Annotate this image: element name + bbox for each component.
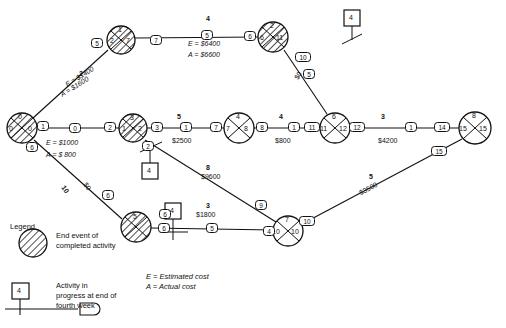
activity-tag-label: 1 <box>41 123 45 130</box>
activity-tag[interactable]: 15 <box>432 147 447 156</box>
pert-network-diagram: 0 0 0 3 1 2 1 2 7 2 6 11 4 7 8 6 11 12 8… <box>0 0 506 328</box>
edge-duration: 4 <box>279 113 283 120</box>
activity-tag[interactable]: 6 <box>245 32 256 41</box>
activity-tag[interactable]: 4 <box>264 227 275 236</box>
cost-label: E = $1000 <box>46 139 78 146</box>
activity-tag-label: 2 <box>108 124 112 131</box>
activity-tag[interactable]: 1 <box>289 123 300 132</box>
activity-tag-label: 7 <box>154 37 158 44</box>
activity-tag[interactable]: 1 <box>38 122 49 131</box>
activity-tag-label: 0 <box>73 125 77 132</box>
activity-tag-label: 5 <box>307 71 311 78</box>
activity-tag-label: 5 <box>205 32 209 39</box>
activity-tag-label: 1 <box>409 124 413 131</box>
activity-tag[interactable]: 5 <box>92 39 103 48</box>
activity-tag-label: 12 <box>353 124 361 131</box>
activity-tag-label: 4 <box>267 228 271 235</box>
activity-tag[interactable]: 6 <box>27 143 38 152</box>
activity-tag[interactable]: 10 <box>296 53 311 62</box>
edge-duration: 3 <box>381 113 385 120</box>
activity-tag[interactable]: 12 <box>350 123 365 132</box>
activity-tag[interactable]: 10 <box>300 217 315 226</box>
activity-tag[interactable]: 6 <box>159 224 170 233</box>
activity-tag[interactable]: 9 <box>256 201 267 210</box>
cost-label: $2500 <box>172 137 191 144</box>
activity-tag[interactable]: 3 <box>152 123 163 132</box>
activity-tag-label: 15 <box>435 148 443 155</box>
activity-tag-label: 2 <box>146 143 150 150</box>
activity-tag[interactable]: 5 <box>304 70 315 79</box>
edge-duration: 5 <box>369 173 373 180</box>
activity-tag-layer: 5756102317811112114156266654109105 <box>0 0 506 328</box>
activity-tag-label: 6 <box>248 33 252 40</box>
activity-tag-label: 8 <box>260 124 264 131</box>
edge-duration: 3 <box>206 202 210 209</box>
activity-tag[interactable]: 5 <box>202 31 213 40</box>
legend-title: Legend <box>10 222 35 231</box>
activity-tags: 5756102317811112114156266654109105 <box>0 0 506 328</box>
legend-item-in-progress: Activity in progress at end of fourth we… <box>56 281 118 311</box>
cost-label: $1800 <box>196 211 215 218</box>
legend-week-marker-label: 4 <box>17 287 21 294</box>
activity-tag-label: 10 <box>303 218 311 225</box>
activity-tag-label: 6 <box>30 144 34 151</box>
activity-tag-label: 9 <box>259 202 263 209</box>
activity-tag-label: 6 <box>106 192 110 199</box>
activity-tag-label: 6 <box>162 225 166 232</box>
activity-tag-label: 11 <box>309 124 316 131</box>
activity-tag[interactable]: 11 <box>305 123 320 132</box>
activity-tag[interactable]: 6 <box>103 191 114 200</box>
cost-label: $4200 <box>378 137 397 144</box>
cost-label: A = $6600 <box>188 51 220 58</box>
activity-tag[interactable]: 5 <box>207 224 218 233</box>
activity-tag-label: 7 <box>214 124 218 131</box>
activity-tag[interactable]: 1 <box>406 123 417 132</box>
cost-label: $9600 <box>201 173 220 180</box>
edge-duration: 4 <box>206 15 210 22</box>
edge-duration: 5 <box>177 113 181 120</box>
activity-tag[interactable]: 0 <box>70 124 81 133</box>
week-marker-label: 4 <box>170 207 174 214</box>
legend-item-completed-event: End event of completed activity <box>56 231 118 251</box>
activity-tag[interactable]: 7 <box>151 36 162 45</box>
activity-tag-label: 1 <box>292 124 296 131</box>
activity-tag[interactable]: 2 <box>143 142 154 151</box>
cost-label: E = $6400 <box>188 40 220 47</box>
activity-tag[interactable]: 7 <box>211 123 222 132</box>
activity-tag-label: 6 <box>163 211 167 218</box>
activity-tag-label: 5 <box>95 40 99 47</box>
activity-tag-label: 10 <box>299 54 307 61</box>
cost-label: $800 <box>275 137 291 144</box>
week-marker-label: 4 <box>349 14 353 21</box>
activity-tag[interactable]: 14 <box>435 123 450 132</box>
activity-tag[interactable]: 8 <box>257 123 268 132</box>
activity-tag-label: 3 <box>155 124 159 131</box>
cost-key-actual: A = Actual cost <box>146 282 196 293</box>
activity-tag-label: 14 <box>438 124 446 131</box>
activity-tag[interactable]: 1 <box>181 123 192 132</box>
activity-tag-label: 1 <box>184 124 188 131</box>
activity-tag[interactable]: 6 <box>160 210 171 219</box>
week-marker-label: 4 <box>147 167 151 174</box>
activity-tag-label: 5 <box>210 225 214 232</box>
edge-duration: 8 <box>206 164 210 171</box>
cost-label: A = $ 800 <box>46 151 76 158</box>
activity-tag[interactable]: 2 <box>105 123 116 132</box>
